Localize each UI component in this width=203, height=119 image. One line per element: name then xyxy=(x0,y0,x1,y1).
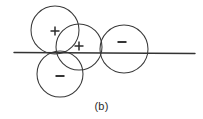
upper-left-plus-sign xyxy=(51,27,60,36)
lower-left-circle xyxy=(37,51,83,97)
right-circle xyxy=(100,25,148,73)
horizontal-axis-line xyxy=(14,53,195,54)
figure-container: (b) xyxy=(0,0,203,119)
figure-caption: (b) xyxy=(0,100,203,113)
